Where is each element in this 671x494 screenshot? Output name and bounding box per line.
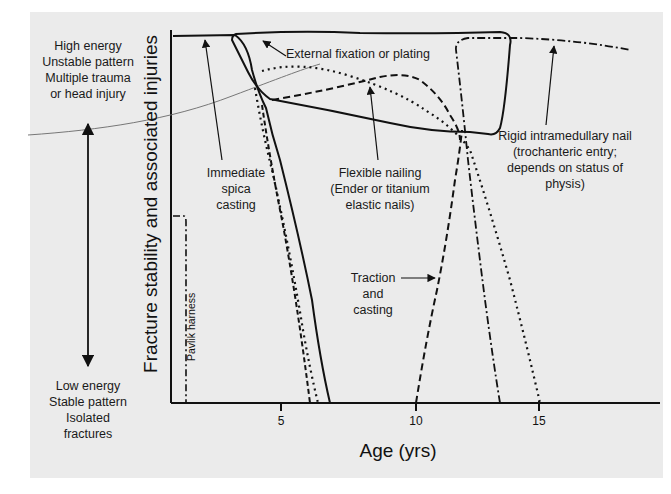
label-line: fractures xyxy=(30,426,146,442)
label-line: casting xyxy=(348,302,398,318)
rigid-nail-arrow xyxy=(546,46,554,125)
label-line: External fixation or plating xyxy=(286,46,430,62)
label-line: Stable pattern xyxy=(30,394,146,410)
label-line: Rigid intramedullary nail xyxy=(490,128,640,144)
label-line: Traction xyxy=(348,270,398,286)
label-line: and xyxy=(348,286,398,302)
label-line: (Ender or titanium xyxy=(324,181,436,197)
external-fixation-label: External fixation or plating xyxy=(286,46,430,62)
label-line: physis) xyxy=(490,176,640,192)
high-energy-label: High energy Unstable pattern Multiple tr… xyxy=(30,38,146,102)
label-line: High energy xyxy=(30,38,146,54)
pavlik-harness-label: Pavlik harness xyxy=(185,293,197,361)
axes xyxy=(171,30,660,411)
spica-arrow xyxy=(205,40,222,160)
x-axis-label: Age (yrs) xyxy=(359,440,436,462)
label-line: Unstable pattern xyxy=(30,54,146,70)
x-tick-label-5: 5 xyxy=(278,414,285,428)
label-line: Isolated xyxy=(30,410,146,426)
spica-casting-label: Immediate spica casting xyxy=(196,165,276,213)
rigid-im-nail-label: Rigid intramedullary nail (trochanteric … xyxy=(490,128,640,192)
x-tick-label-15: 15 xyxy=(532,414,545,428)
y-axis-label: Fracture stability and associated injuri… xyxy=(140,35,162,373)
label-line: or head injury xyxy=(30,86,146,102)
label-line: Immediate xyxy=(196,165,276,181)
label-line: elastic nails) xyxy=(324,197,436,213)
label-line: Low energy xyxy=(30,378,146,394)
low-energy-label: Low energy Stable pattern Isolated fract… xyxy=(30,378,146,442)
rigid-im-nail-curve xyxy=(456,38,630,403)
x-tick-label-10: 10 xyxy=(409,414,422,428)
traction-casting-label: Traction and casting xyxy=(348,270,398,318)
label-line: (trochanteric entry; xyxy=(490,144,640,160)
flexible-nailing-curve-left xyxy=(255,88,318,403)
label-line: depends on status of xyxy=(490,160,640,176)
label-line: spica xyxy=(196,181,276,197)
label-line: casting xyxy=(196,197,276,213)
flexible-nailing-label: Flexible nailing (Ender or titanium elas… xyxy=(324,165,436,213)
external-fixation-arrow xyxy=(263,41,286,56)
flexible-nailing-arrow xyxy=(370,87,378,160)
label-line: Multiple trauma xyxy=(30,70,146,86)
label-line: Flexible nailing xyxy=(324,165,436,181)
